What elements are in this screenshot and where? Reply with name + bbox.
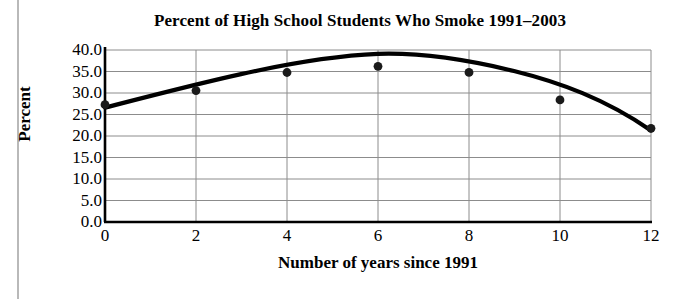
x-tick-label: 6 [358, 227, 398, 244]
x-tick-label: 4 [267, 227, 307, 244]
chart-figure: Percent of High School Students Who Smok… [0, 0, 696, 299]
x-tick-label: 2 [176, 227, 216, 244]
x-tick-label: 12 [631, 227, 671, 244]
x-tick-label: 8 [449, 227, 489, 244]
x-tick-label: 10 [540, 227, 580, 244]
x-tick-label: 0 [85, 227, 125, 244]
x-axis-title: Number of years since 1991 [105, 253, 651, 273]
